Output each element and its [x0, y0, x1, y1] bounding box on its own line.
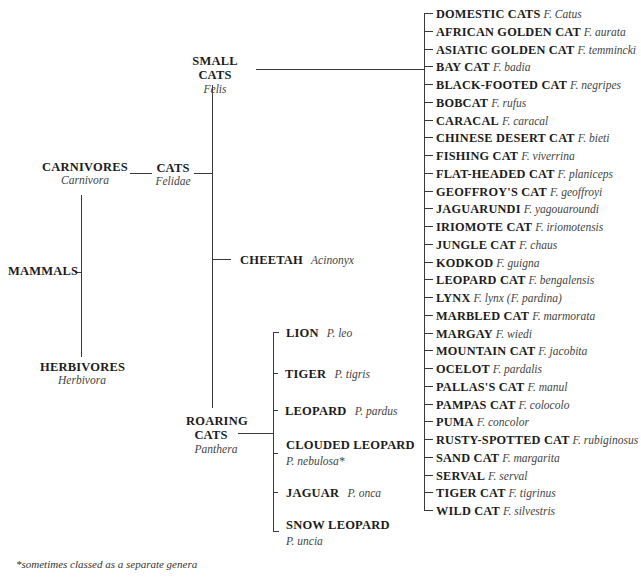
species-scientific: F. margarita: [502, 452, 560, 464]
cheetah-scientific: Acinonyx: [311, 254, 354, 266]
species-scientific: F. caracal: [502, 115, 548, 127]
small-species-item: PAMPAS CATF. colocolo: [436, 395, 569, 413]
small-species-tick: [424, 208, 433, 209]
species-common: KODKOD: [436, 256, 493, 270]
roaring-tick: [273, 373, 278, 374]
species-common: TIGER: [285, 367, 326, 381]
small-species-item: BOBCATF. rufus: [436, 93, 526, 111]
small-species-item: PALLAS'S CATF. manul: [436, 377, 567, 395]
small-species-tick: [424, 492, 433, 493]
node-carnivores: CARNIVORES Carnivora: [40, 160, 130, 188]
small-species-tick: [424, 421, 433, 422]
species-scientific: F. negripes: [570, 79, 621, 91]
species-common: AFRICAN GOLDEN CAT: [436, 25, 581, 39]
small-species-tick: [424, 137, 433, 138]
cheetah-connector: [212, 259, 231, 260]
cats-label: CATS: [152, 161, 194, 175]
species-scientific: F. serval: [488, 470, 527, 482]
species-scientific: F. pardalis: [493, 363, 542, 375]
herbivores-label: HERBIVORES: [40, 360, 124, 374]
species-common: IRIOMOTE CAT: [436, 220, 532, 234]
species-common: MARBLED CAT: [436, 309, 529, 323]
roaring-species-tiger: TIGER P. tigris: [285, 365, 370, 382]
small-species-item: DOMESTIC CATSF. Catus: [436, 4, 582, 22]
small-species-item: CHINESE DESERT CATF. bieti: [436, 128, 609, 146]
roaring-tick: [273, 492, 278, 493]
roaring-species-leopard: LEOPARD P. pardus: [285, 402, 398, 419]
small-species-item: MOUNTAIN CATF. jacobita: [436, 341, 587, 359]
small-species-item: GEOFFROY'S CATF. geoffroyi: [436, 182, 602, 200]
node-cheetah: CHEETAH Acinonyx: [240, 251, 354, 268]
species-scientific: F. colocolo: [519, 399, 570, 411]
species-common: BOBCAT: [436, 96, 488, 110]
species-scientific: F. yagouaroundi: [524, 203, 599, 215]
small-species-tick: [424, 333, 433, 334]
small-species-item: AFRICAN GOLDEN CATF. aurata: [436, 22, 626, 40]
roaring-species-lion: LION P. leo: [286, 324, 352, 341]
small-species-tick: [424, 386, 433, 387]
small-species-item: ASIATIC GOLDEN CATF. temmincki: [436, 40, 636, 58]
species-common: LION: [286, 326, 319, 340]
species-common: JUNGLE CAT: [436, 238, 516, 252]
species-common: PALLAS'S CAT: [436, 380, 524, 394]
small-species-tick: [424, 226, 433, 227]
species-scientific: F. chaus: [519, 239, 557, 251]
cats-scientific: Felidae: [152, 175, 194, 188]
small-species-item: IRIOMOTE CATF. iriomotensis: [436, 217, 603, 235]
roaring-tick: [273, 453, 278, 454]
species-common: SERVAL: [436, 469, 485, 483]
species-common: LEOPARD CAT: [436, 273, 526, 287]
species-common: ASIATIC GOLDEN CAT: [436, 43, 574, 57]
mammals-vertical-line: [81, 195, 82, 357]
small-species-item: BLACK-FOOTED CATF. negripes: [436, 75, 621, 93]
species-scientific: F. iriomotensis: [535, 221, 603, 233]
species-scientific: F. aurata: [584, 26, 626, 38]
node-cats: CATS Felidae: [152, 161, 194, 189]
species-scientific: F. Catus: [544, 8, 582, 20]
small-cats-scientific: Felis: [178, 83, 252, 96]
species-common: LEOPARD: [285, 404, 347, 418]
roaring-cats-label-2: CATS: [186, 428, 236, 442]
species-scientific: F. silvestris: [503, 505, 555, 517]
roaring-cats-scientific: Panthera: [186, 443, 246, 456]
species-scientific: F. viverrina: [521, 150, 574, 162]
species-common: MOUNTAIN CAT: [436, 344, 535, 358]
small-species-item: MARGAYF. wiedi: [436, 324, 532, 342]
roaring-species-jaguar: JAGUAR P. onca: [286, 484, 381, 501]
small-species-tick: [424, 13, 433, 14]
species-scientific: F. bengalensis: [529, 274, 595, 286]
species-common: FLAT-HEADED CAT: [436, 167, 555, 181]
species-scientific: F. badia: [493, 61, 531, 73]
small-species-tick: [424, 191, 433, 192]
node-herbivores: HERBIVORES Herbivora: [40, 360, 124, 388]
small-species-item: KODKODF. guigna: [436, 253, 539, 271]
species-common: SNOW LEOPARD: [286, 517, 390, 533]
herbivores-scientific: Herbivora: [40, 374, 124, 387]
small-species-tick: [424, 102, 433, 103]
small-species-tick: [424, 457, 433, 458]
small-species-tick: [424, 84, 433, 85]
species-scientific: F. guigna: [496, 257, 539, 269]
carnivores-scientific: Carnivora: [40, 174, 130, 187]
small-species-tick: [424, 155, 433, 156]
cats-vertical-line: [212, 85, 213, 408]
roaring-species-clouded-leopard: CLOUDED LEOPARD P. nebulosa*: [286, 437, 415, 469]
species-common: WILD CAT: [436, 504, 500, 518]
species-common: RUSTY-SPOTTED CAT: [436, 433, 570, 447]
species-common: GEOFFROY'S CAT: [436, 185, 547, 199]
species-common: TIGER CAT: [436, 486, 506, 500]
small-cats-connector: [256, 69, 424, 70]
species-common: CHINESE DESERT CAT: [436, 131, 575, 145]
species-common: CLOUDED LEOPARD: [286, 437, 415, 453]
small-species-tick: [424, 173, 433, 174]
small-species-tick: [424, 315, 433, 316]
species-common: OCELOT: [436, 362, 490, 376]
small-species-item: RUSTY-SPOTTED CATF. rubiginosus: [436, 430, 638, 448]
roaring-tick: [273, 410, 278, 411]
species-scientific: P. pardus: [355, 405, 398, 417]
small-species-tick: [424, 475, 433, 476]
species-scientific: F. planiceps: [558, 168, 613, 180]
species-common: CARACAL: [436, 114, 499, 128]
small-species-item: OCELOTF. pardalis: [436, 359, 542, 377]
small-species-tick: [424, 120, 433, 121]
